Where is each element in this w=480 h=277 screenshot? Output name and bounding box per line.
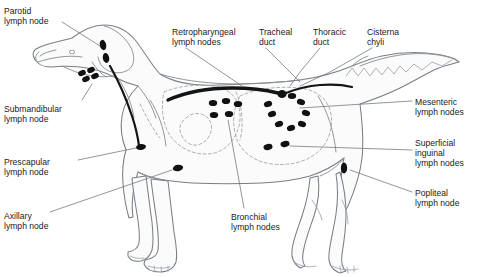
thoracic-duct-label-line-1: Thoracic xyxy=(313,27,346,37)
bronchial-node xyxy=(210,112,218,118)
submandibular-node xyxy=(81,75,91,83)
superficial-inguinal-lymph-nodes-label-line-1: Superficial xyxy=(415,138,464,148)
tracheal-duct-label-line-2: duct xyxy=(259,37,292,47)
dog-body-outline xyxy=(33,25,459,218)
axillary-lymph-node-label-line-2: lymph node xyxy=(4,221,48,231)
parotid-lymph-node-label-line-2: lymph node xyxy=(4,16,48,26)
axillary-lymph-node-label: Axillarylymph node xyxy=(4,211,48,231)
popliteal-lymph-node-label: Popliteallymph node xyxy=(415,188,459,208)
superficial-inguinal-lymph-nodes-label: Superficialinguinallymph nodes xyxy=(415,138,464,169)
popliteal-lymph-node-label-line-1: Popliteal xyxy=(415,188,459,198)
popliteal-node xyxy=(341,163,347,174)
prescapular-lymph-node-label: Prescapularlymph node xyxy=(4,157,50,177)
retropharyngeal-lymph-nodes-label: Retropharyngeallymph nodes xyxy=(172,27,236,47)
cisterna-chyli-label-line-1: Cisterna xyxy=(367,27,399,37)
mesenteric-lymph-nodes-label: Mesentericlymph nodes xyxy=(415,97,464,117)
bronchial-node xyxy=(222,98,230,104)
leader-submandibular xyxy=(82,84,92,100)
mesenteric-node xyxy=(288,93,296,99)
bronchial-node xyxy=(209,100,217,106)
leader-tracheal xyxy=(266,48,300,82)
prescapular-lymph-node-label-line-1: Prescapular xyxy=(4,157,50,167)
cisterna-chyli-label: Cisternachyli xyxy=(367,27,399,47)
superficial-inguinal-lymph-nodes-label-line-3: lymph nodes xyxy=(415,158,464,168)
parotid-lymph-node-label: Parotidlymph node xyxy=(4,6,48,26)
submandibular-node xyxy=(90,72,100,80)
submandibular-lymph-node-label-line-2: lymph node xyxy=(4,114,62,124)
thoracic-duct-label: Thoracicduct xyxy=(313,27,346,47)
popliteal-lymph-node-label-line-2: lymph node xyxy=(415,198,459,208)
parotid-lymph-node-label-line-1: Parotid xyxy=(4,6,48,16)
axillary-lymph-node-label-line-1: Axillary xyxy=(4,211,48,221)
submandibular-lymph-node-label: Submandibularlymph node xyxy=(4,104,62,124)
submandibular-lymph-node-label-line-1: Submandibular xyxy=(4,104,62,114)
bronchial-lymph-nodes-label-line-1: Bronchial xyxy=(231,212,280,222)
tracheal-duct-label-line-1: Tracheal xyxy=(259,27,292,37)
mesenteric-lymph-nodes-label-line-2: lymph nodes xyxy=(415,107,464,117)
diagram-canvas: .body{fill:#fbfbfb;stroke:#7a7f86;stroke… xyxy=(0,0,480,277)
submandibular-node xyxy=(77,69,87,77)
lymphatic-diagram: .body{fill:#fbfbfb;stroke:#7a7f86;stroke… xyxy=(0,0,480,277)
cisterna-chyli-node xyxy=(277,90,286,98)
mesenteric-lymph-nodes-label-line-1: Mesenteric xyxy=(415,97,464,107)
cisterna-chyli-label-line-2: chyli xyxy=(367,37,399,47)
thoracic-duct-label-line-2: duct xyxy=(313,37,346,47)
superficial-inguinal-lymph-nodes-label-line-2: inguinal xyxy=(415,148,464,158)
retropharyngeal-lymph-nodes-label-line-2: lymph nodes xyxy=(172,37,236,47)
prescapular-lymph-node-label-line-2: lymph node xyxy=(4,167,50,177)
tracheal-duct-label: Trachealduct xyxy=(259,27,292,47)
leader-retropharyngeal xyxy=(186,48,242,86)
popliteal-node-group xyxy=(341,163,347,174)
bronchial-lymph-nodes-label-line-2: lymph nodes xyxy=(231,222,280,232)
retropharyngeal-lymph-nodes-label-line-1: Retropharyngeal xyxy=(172,27,236,37)
bronchial-node xyxy=(234,101,242,107)
bronchial-lymph-nodes-label: Bronchiallymph nodes xyxy=(231,212,280,232)
leader-popliteal xyxy=(350,170,412,192)
bronchial-node xyxy=(225,111,233,117)
